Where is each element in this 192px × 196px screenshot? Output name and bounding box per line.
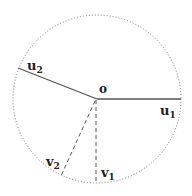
vector-v2 xyxy=(61,101,95,176)
label-v2: v2 xyxy=(45,154,60,171)
label-u1: u1 xyxy=(160,103,176,120)
label-v1: v1 xyxy=(100,165,115,182)
label-u2: u2 xyxy=(27,58,43,75)
vector-diagram: o u1 u2 v1 v2 xyxy=(0,0,192,196)
origin-label: o xyxy=(99,82,107,96)
